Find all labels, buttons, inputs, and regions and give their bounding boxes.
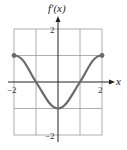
x-axis-arrow-icon (109, 80, 115, 85)
x-tick-left: −2 (7, 85, 17, 95)
x-tick-right: 2 (98, 85, 103, 95)
y-axis-label: f'(x) (48, 2, 66, 15)
x-axis (8, 80, 115, 85)
endpoint-right (100, 53, 105, 58)
y-tick-top: 2 (50, 25, 55, 35)
y-axis (56, 16, 61, 142)
y-axis-arrow-icon (56, 16, 61, 22)
chart: f'(x) x −2 2 2 −2 (0, 0, 127, 150)
y-tick-bottom: −2 (45, 131, 55, 141)
endpoint-left (12, 53, 17, 58)
x-axis-label: x (115, 75, 121, 87)
